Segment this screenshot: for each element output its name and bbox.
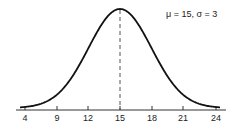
x-tick-label: 24 [211, 113, 221, 123]
normal-distribution-chart: 491215182124 [0, 0, 240, 127]
x-axis-ticks: 491215182124 [22, 106, 221, 123]
x-tick-label: 18 [147, 113, 157, 123]
density-curve [20, 9, 220, 107]
x-tick-label: 12 [83, 113, 93, 123]
x-tick-label: 9 [54, 113, 59, 123]
x-tick-label: 15 [115, 113, 125, 123]
x-tick-label: 21 [178, 113, 188, 123]
parameter-annotation: μ = 15, σ = 3 [166, 9, 217, 19]
x-tick-label: 4 [22, 113, 27, 123]
